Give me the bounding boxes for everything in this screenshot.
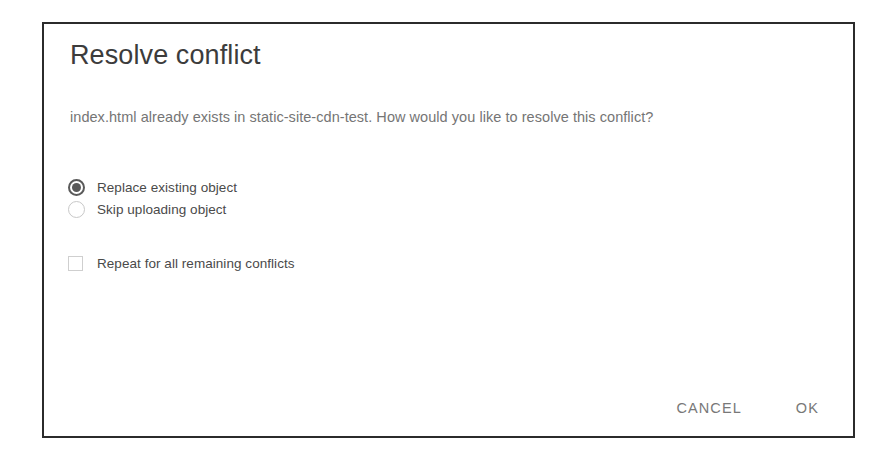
radio-option-skip-uploading-object[interactable]: Skip uploading object	[68, 198, 237, 220]
repeat-for-all-conflicts-checkbox-row[interactable]: Repeat for all remaining conflicts	[68, 252, 295, 274]
radio-selected-icon[interactable]	[68, 179, 85, 196]
dialog-message: index.html already exists in static-site…	[70, 106, 790, 129]
radio-option-label: Skip uploading object	[97, 202, 226, 217]
checkbox-unchecked-icon[interactable]	[68, 256, 83, 271]
dialog-action-bar: CANCEL OK	[660, 392, 835, 424]
radio-option-label: Replace existing object	[97, 180, 237, 195]
resolve-conflict-dialog: Resolve conflict index.html already exis…	[42, 22, 855, 438]
radio-unselected-icon[interactable]	[68, 201, 85, 218]
ok-button[interactable]: OK	[780, 392, 835, 424]
dialog-title: Resolve conflict	[70, 40, 261, 71]
radio-option-replace-existing-object[interactable]: Replace existing object	[68, 176, 237, 198]
conflict-resolution-radio-group: Replace existing object Skip uploading o…	[68, 176, 237, 220]
cancel-button[interactable]: CANCEL	[660, 392, 757, 424]
checkbox-label: Repeat for all remaining conflicts	[97, 256, 295, 271]
